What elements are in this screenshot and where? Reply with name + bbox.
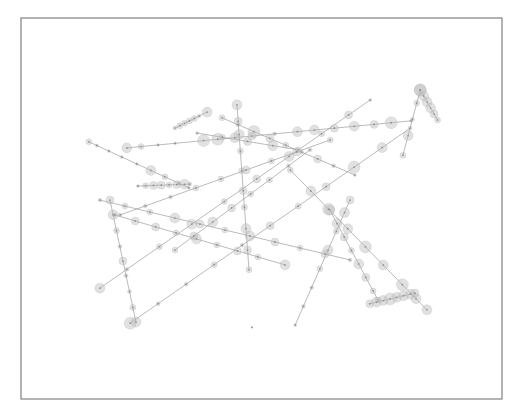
track-node-center-t4-1 bbox=[237, 120, 239, 122]
track-node-center-t10-5 bbox=[224, 229, 226, 231]
track-node-center-t4-7 bbox=[245, 228, 247, 230]
track-node-center-t1-0 bbox=[88, 141, 90, 143]
track-node-center-t2-3 bbox=[174, 142, 176, 144]
track-node-center-t1-1 bbox=[96, 145, 98, 147]
track-node-center-t15-8 bbox=[426, 309, 428, 311]
track-node-center-t5-4 bbox=[285, 144, 287, 146]
track-node-center-t2-12 bbox=[353, 125, 355, 127]
track-node-center-t7-1 bbox=[126, 268, 128, 270]
track-node-center-t12-2 bbox=[412, 118, 414, 120]
track-node-center-t2-13 bbox=[373, 123, 375, 125]
track-node-center-t8-6 bbox=[297, 205, 299, 207]
track-node-center-t1-5 bbox=[150, 170, 152, 172]
track-node-center-t10-0 bbox=[99, 199, 101, 201]
track-node-center-t16-1 bbox=[303, 305, 305, 307]
track-node-center-t19-4 bbox=[220, 178, 222, 180]
track-node-center-t20-5 bbox=[269, 179, 271, 181]
track-node-center-t6-0 bbox=[196, 132, 198, 134]
track-node-center-t4-6 bbox=[244, 206, 246, 208]
track-node-center-t6-1 bbox=[221, 136, 223, 138]
track-node-center-t9-6 bbox=[129, 291, 131, 293]
track-node-center-t18-6 bbox=[236, 250, 238, 252]
track-node-center-t3-0 bbox=[174, 127, 176, 129]
track-node-center-t14-2 bbox=[343, 236, 345, 238]
track-node-center-t12-3 bbox=[407, 135, 409, 137]
track-node-center-t4-5 bbox=[242, 190, 244, 192]
track-node-center-t5-1 bbox=[237, 124, 239, 126]
track-node-center-t9-7 bbox=[132, 307, 134, 309]
track-node-center-t20-3 bbox=[231, 207, 233, 209]
track-node-center-t4-9 bbox=[248, 269, 250, 271]
track-node-center-t5-0 bbox=[221, 117, 223, 119]
track-node-center-t2-14 bbox=[390, 122, 392, 124]
track-node-center-t3-4 bbox=[193, 118, 195, 120]
trajectory-figure bbox=[0, 0, 525, 418]
track-node-center-t2-2 bbox=[157, 144, 159, 146]
track-node-center-t20-1 bbox=[193, 235, 195, 237]
track-node-center-t9-4 bbox=[122, 260, 124, 262]
track-node-center-t3-3 bbox=[189, 120, 191, 122]
track-node-center-t15-2 bbox=[328, 208, 330, 210]
track-node-center-t19-2 bbox=[170, 196, 172, 198]
track-node-center-t18-8 bbox=[284, 264, 286, 266]
track-node-center-t11-2 bbox=[153, 185, 155, 187]
track-node-center-t20-0 bbox=[174, 249, 176, 251]
track-node-center-t13-0 bbox=[419, 89, 421, 91]
track-node-center-t9-5 bbox=[125, 275, 127, 277]
track-node-center-t15-5 bbox=[382, 264, 384, 266]
track-node-center-t14-5 bbox=[365, 277, 367, 279]
track-node-center-t14-1 bbox=[336, 223, 338, 225]
track-node-center-t9-3 bbox=[119, 246, 121, 248]
track-node-center-t15-4 bbox=[365, 246, 367, 248]
track-node-center-t15-6 bbox=[401, 284, 403, 286]
track-node-center-t8-2 bbox=[185, 283, 187, 285]
track-node-center-t17-1 bbox=[376, 301, 378, 303]
track-node-center-t16-4 bbox=[327, 249, 329, 251]
track-node-center-t13-1 bbox=[423, 95, 425, 97]
track-node-center-t6-2 bbox=[247, 141, 249, 143]
track-node-center-t5-8 bbox=[354, 174, 356, 176]
track-node-center-t11-6 bbox=[184, 183, 186, 185]
track-node-center-t2-1 bbox=[140, 146, 142, 148]
track-node-center-t7-0 bbox=[99, 287, 101, 289]
track-node-center-t6-3 bbox=[272, 145, 274, 147]
track-node-center-t16-3 bbox=[319, 268, 321, 270]
track-node-center-t18-2 bbox=[155, 226, 157, 228]
track-node-center-t19-6 bbox=[271, 160, 273, 162]
track-node-center-t3-6 bbox=[206, 111, 208, 113]
track-node-center-t16-0 bbox=[294, 324, 296, 326]
track-node-center-t8-7 bbox=[325, 186, 327, 188]
track-node-center-t21-0 bbox=[251, 326, 253, 328]
track-node-center-t20-7 bbox=[309, 149, 311, 151]
track-node-center-t10-7 bbox=[274, 241, 276, 243]
track-node-center-t8-1 bbox=[157, 303, 159, 305]
track-node-center-t12-4 bbox=[402, 154, 404, 156]
track-node-center-t19-7 bbox=[296, 151, 298, 153]
track-node-center-t18-7 bbox=[257, 256, 259, 258]
track-node-center-t13-4 bbox=[433, 113, 435, 115]
track-node-center-t16-6 bbox=[344, 212, 346, 214]
track-node-center-t10-2 bbox=[149, 211, 151, 213]
track-node-center-t7-6 bbox=[288, 155, 290, 157]
track-node-center-t19-0 bbox=[119, 214, 121, 216]
track-node-center-t2-11 bbox=[333, 127, 335, 129]
track-node-center-t10-8 bbox=[299, 247, 301, 249]
track-node-center-t7-9 bbox=[369, 99, 371, 101]
track-node-center-t15-7 bbox=[415, 298, 417, 300]
track-node-center-t9-0 bbox=[109, 199, 111, 201]
track-node-center-t20-4 bbox=[250, 193, 252, 195]
track-node-center-t1-3 bbox=[121, 156, 123, 158]
track-node-center-t8-3 bbox=[213, 264, 215, 266]
track-node-center-t15-0 bbox=[289, 169, 291, 171]
track-node-center-t16-2 bbox=[311, 287, 313, 289]
track-node-center-t8-5 bbox=[269, 225, 271, 227]
track-node-center-t19-8 bbox=[329, 139, 331, 141]
track-node-center-t11-3 bbox=[160, 184, 162, 186]
track-node-center-t13-5 bbox=[437, 119, 439, 121]
track-node-center-t3-5 bbox=[198, 115, 200, 117]
track-node-center-t5-3 bbox=[269, 138, 271, 140]
track-node-center-t18-1 bbox=[134, 220, 136, 222]
track-node-center-t17-7 bbox=[414, 292, 416, 294]
track-node-center-t5-6 bbox=[317, 158, 319, 160]
track-node-center-t16-5 bbox=[335, 230, 337, 232]
